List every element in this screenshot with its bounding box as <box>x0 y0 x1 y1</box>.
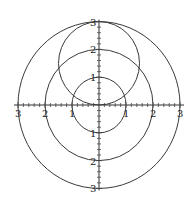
y-tick-label: 3 <box>90 183 96 194</box>
y-tick-label: 1 <box>90 72 96 83</box>
x-tick-label: 2 <box>150 108 156 119</box>
y-tick-label: 1 <box>90 128 96 139</box>
y-tick-label: 2 <box>90 156 96 167</box>
x-tick-label: 3 <box>15 108 21 119</box>
y-tick-label: 3 <box>90 17 96 28</box>
x-tick-label: 1 <box>123 108 129 119</box>
y-tick-label: 2 <box>90 44 96 55</box>
polar-plot: 321123321123 <box>0 0 196 200</box>
x-tick-label: 3 <box>177 108 183 119</box>
x-tick-label: 2 <box>42 108 48 119</box>
x-tick-label: 1 <box>69 108 75 119</box>
